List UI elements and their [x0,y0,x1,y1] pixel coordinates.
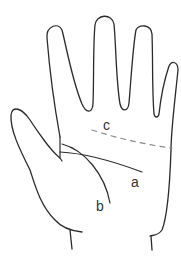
label-c: c [103,118,110,132]
hand-diagram [0,0,181,259]
thumb-outline [11,109,82,249]
label-b: b [96,199,104,213]
thumb-crease [60,137,62,161]
label-a: a [131,175,139,189]
hand-outline [47,16,178,250]
line-a [60,152,142,172]
